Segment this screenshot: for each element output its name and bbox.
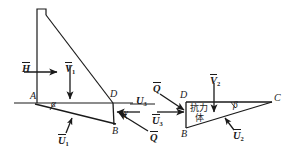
angle-label-gamma: γ	[124, 109, 128, 119]
force-sub-U3-right: 3	[160, 120, 163, 127]
point-label-C: C	[274, 93, 281, 103]
point-label-D-right: D	[180, 90, 187, 100]
resistance-body-label: 抗力 体	[188, 104, 210, 123]
force-label-V1: V1	[65, 64, 75, 75]
force-sub-V2: 2	[217, 80, 220, 87]
diagram-canvas	[0, 0, 287, 157]
force-label-U2: U2	[233, 131, 244, 142]
force-label-U3-right: U3	[152, 116, 163, 127]
force-label-Q-left: Q	[150, 133, 158, 144]
dam-body-outline	[37, 9, 113, 103]
resistance-body-label-line2: 体	[188, 114, 210, 124]
force-label-Q-right: Q	[153, 84, 161, 95]
point-label-B-left: B	[112, 126, 118, 136]
force-label-U3-left: U3	[136, 96, 147, 107]
angle-label-beta: β	[233, 101, 238, 111]
force-sub-U3-left: 3	[144, 100, 147, 107]
force-sub-V1: 1	[72, 68, 75, 75]
point-label-D-left: D	[110, 89, 117, 99]
force-label-V2: V2	[210, 76, 220, 87]
force-label-U1: U1	[58, 136, 69, 147]
force-diagram: A D B α γ H V1 U1 U3 Q D B C β 抗力 体 Q U3…	[0, 0, 287, 157]
force-sub-U2: 2	[241, 135, 244, 142]
force-label-H: H	[22, 64, 30, 75]
force-sub-U1: 1	[66, 140, 69, 147]
point-label-B-right: B	[181, 129, 187, 139]
sliding-wedge	[35, 103, 116, 125]
point-label-A: A	[30, 91, 36, 101]
angle-label-alpha: α	[51, 100, 56, 110]
force-arrow-U1	[66, 118, 72, 133]
